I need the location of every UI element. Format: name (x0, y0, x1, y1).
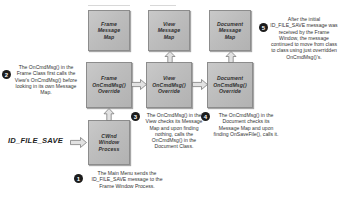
note-4-text: The OnCmdMsg() in the Document checks it… (212, 112, 280, 137)
note-5-text: After the initial ID_FILE_SAVE message w… (270, 16, 338, 60)
note-5: 5 After the initial ID_FILE_SAVE message… (258, 16, 338, 60)
note-2-text: The OnCmdMsg() in the Frame Class first … (13, 64, 79, 95)
box-view-message-map-label: View Message Map (156, 21, 183, 41)
box-frame-message-map: Frame Message Map (88, 10, 130, 51)
box-frame-oncmdmsg-override-label: Frame OnCmdMsg() Override (90, 75, 128, 95)
label-id-file-save: ID_FILE_SAVE (8, 136, 63, 145)
note-1-bullet: 1 (74, 174, 83, 183)
arrow-up-cwnd-to-frame-override (103, 108, 115, 121)
note-3: 3 The OnCmdMsg() in the View checks its … (131, 112, 207, 150)
note-3-bullet: 3 (131, 112, 140, 121)
box-cwnd-window-process: CWnd Window Process (88, 120, 130, 165)
note-1-text: The Main Menu sends the ID_FILE_SAVE mes… (85, 170, 169, 189)
note-1: 1 The Main Menu sends the ID_FILE_SAVE m… (74, 170, 170, 189)
box-cwnd-window-process-label: CWnd Window Process (97, 133, 122, 153)
box-document-oncmdmsg-override: Document OnCmdMsg() Override (207, 62, 253, 108)
arrow-up-document-to-document-message-map (225, 51, 237, 63)
arrow-up-view-to-view-message-map (164, 51, 176, 63)
note-2: 2 The OnCmdMsg() in the Frame Class firs… (2, 64, 80, 95)
note-2-bullet: 2 (2, 70, 11, 79)
box-view-oncmdmsg-override: View OnCmdMsg() Override (146, 62, 192, 108)
box-frame-oncmdmsg-override: Frame OnCmdMsg() Override (86, 62, 132, 108)
note-5-bullet: 5 (259, 23, 268, 32)
box-frame-message-map-label: Frame Message Map (96, 21, 123, 41)
note-3-text: The OnCmdMsg() in the View checks its Me… (142, 112, 206, 150)
box-document-oncmdmsg-override-label: Document OnCmdMsg() Override (211, 75, 249, 95)
box-view-message-map: View Message Map (148, 10, 190, 51)
arrow-right-frame-to-view-override (131, 79, 147, 90)
scan-artifact-bar (88, 5, 130, 6)
box-view-oncmdmsg-override-label: View OnCmdMsg() Override (150, 75, 188, 95)
box-document-message-map: Document Message Map (209, 10, 251, 51)
note-4: 4 The OnCmdMsg() in the Document checks … (201, 112, 281, 137)
scan-artifact-bar (150, 5, 176, 6)
message-routing-diagram: Frame Message Map View Message Map Docum… (0, 0, 338, 200)
box-document-message-map-label: Document Message Map (215, 21, 245, 41)
arrow-right-view-to-document-override (192, 79, 208, 90)
note-4-bullet: 4 (201, 112, 210, 121)
arrow-right-id-file-save-to-cwnd (70, 137, 87, 148)
